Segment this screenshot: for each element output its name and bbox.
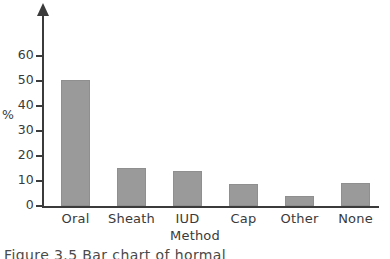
x-tick-label-none: None	[328, 211, 384, 226]
y-tick-label-30: 30	[0, 124, 34, 137]
y-tick-label-text: 30	[2, 124, 34, 137]
y-tick-label-text: 60	[2, 49, 34, 62]
x-tick-label-cap: Cap	[216, 211, 272, 226]
y-tick-label-60: 60	[0, 49, 34, 62]
figure-bar-chart: % 0102030405060 OralSheathIUDCapOtherNon…	[0, 0, 390, 259]
x-tick-label-iud: IUD	[160, 211, 216, 226]
y-tick-label-10: 10	[0, 174, 34, 187]
y-tick-label-text: 50	[2, 74, 34, 87]
y-tick-50	[36, 80, 43, 82]
y-tick-label-20: 20	[0, 149, 34, 162]
y-tick-40	[36, 105, 43, 107]
bar-cap	[229, 184, 258, 206]
x-tick-label-other: Other	[272, 211, 328, 226]
y-axis-arrow-icon	[37, 3, 49, 16]
y-tick-10	[36, 180, 43, 182]
y-axis-line	[42, 14, 44, 208]
y-tick-60	[36, 55, 43, 57]
y-tick-label-text: 20	[2, 149, 34, 162]
x-axis-title: Method	[0, 228, 390, 243]
y-tick-label-text: 0	[2, 199, 34, 212]
bar-none	[341, 183, 370, 207]
x-tick-label-sheath: Sheath	[104, 211, 160, 226]
x-axis-line	[42, 206, 379, 208]
y-tick-label-text: 40	[2, 99, 34, 112]
x-tick-label-oral: Oral	[48, 211, 104, 226]
bar-other	[285, 196, 314, 206]
y-tick-label-50: 50	[0, 74, 34, 87]
y-tick-label-40: 40	[0, 99, 34, 112]
y-tick-0	[36, 205, 43, 207]
bar-iud	[173, 171, 202, 206]
y-tick-label-text: 10	[2, 174, 34, 187]
bar-oral	[61, 80, 90, 206]
y-tick-20	[36, 155, 43, 157]
y-tick-label-0: 0	[0, 199, 34, 212]
y-tick-30	[36, 130, 43, 132]
bar-sheath	[117, 168, 146, 206]
plot-area: % 0102030405060 OralSheathIUDCapOtherNon…	[0, 0, 390, 215]
figure-caption: Figure 3.5 Bar chart of hormal	[4, 248, 390, 259]
